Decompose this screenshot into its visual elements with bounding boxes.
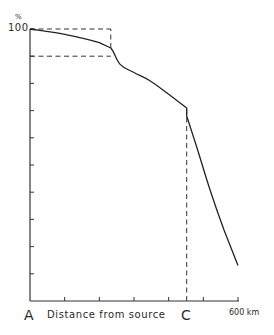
- x-max-label: 600 km: [229, 308, 259, 317]
- chart-plot: [0, 0, 274, 335]
- y-unit-label: %: [15, 13, 22, 21]
- y-max-label: 100: [8, 22, 29, 33]
- x-axis-title: Distance from source: [47, 309, 166, 320]
- point-c-label: C: [181, 307, 191, 323]
- dashed-reference-lines: [30, 29, 187, 301]
- axes: [30, 29, 239, 301]
- data-curve: [30, 29, 238, 266]
- point-a-label: A: [24, 307, 34, 323]
